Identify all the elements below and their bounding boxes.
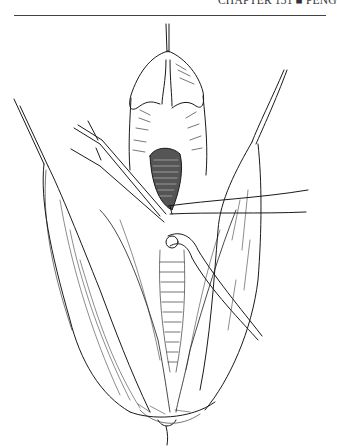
lower-vessel-loop xyxy=(166,234,262,340)
bottom-base xyxy=(130,402,215,445)
left-instruments xyxy=(14,99,166,222)
central-shaft xyxy=(159,250,184,372)
right-flap xyxy=(200,70,287,410)
surgical-illustration xyxy=(0,16,326,448)
running-head: CHAPTER 131 ■ PENG xyxy=(218,0,337,6)
inner-flaps xyxy=(100,210,236,412)
left-flap xyxy=(43,164,150,412)
traction-suture-top xyxy=(166,24,169,52)
